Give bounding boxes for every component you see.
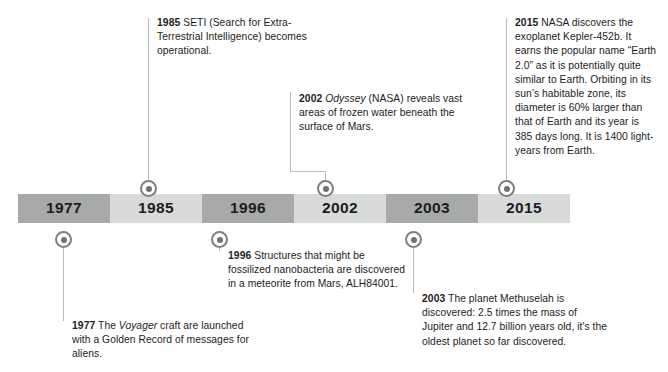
callout-2002-year: 2002 bbox=[299, 93, 322, 104]
leader-line-1985 bbox=[148, 18, 149, 181]
callout-1985-year: 1985 bbox=[157, 17, 180, 28]
year-label-2015: 2015 bbox=[478, 199, 570, 217]
callout-2003: 2003 The planet Methuselah is discovered… bbox=[422, 292, 608, 349]
callout-1977-text-before: The bbox=[95, 320, 119, 331]
timeline-marker-1977[interactable] bbox=[55, 231, 72, 248]
timeline-marker-2002[interactable] bbox=[317, 180, 334, 197]
callout-1996-text: Structures that might be fossilized nano… bbox=[228, 250, 405, 289]
year-label-2002: 2002 bbox=[294, 199, 386, 217]
callout-2015: 2015 NASA discovers the exoplanet Kepler… bbox=[515, 16, 659, 158]
leader-line-1977 bbox=[63, 239, 64, 321]
callout-2015-year: 2015 bbox=[515, 17, 538, 28]
year-label-1985: 1985 bbox=[110, 199, 202, 217]
callout-1996: 1996 Structures that might be fossilized… bbox=[228, 249, 406, 292]
callout-2003-text: The planet Methuselah is discovered: 2.5… bbox=[422, 293, 607, 347]
callout-1996-year: 1996 bbox=[228, 250, 251, 261]
timeline-infographic: 1977 1985 1996 2002 2003 2015 1985 SETI … bbox=[0, 0, 668, 372]
timeline-marker-2003[interactable] bbox=[405, 231, 422, 248]
year-label-1996: 1996 bbox=[202, 199, 294, 217]
callout-2003-year: 2003 bbox=[422, 293, 445, 304]
callout-1977: 1977 The Voyager craft are launched with… bbox=[72, 319, 254, 362]
timeline-marker-1985[interactable] bbox=[140, 180, 157, 197]
leader-line-2002-elbow bbox=[290, 171, 326, 172]
leader-line-2015 bbox=[506, 18, 507, 181]
leader-line-2002-riser bbox=[290, 92, 291, 172]
timeline-marker-2015[interactable] bbox=[498, 180, 515, 197]
callout-1985-text: SETI (Search for Extra-Terrestrial Intel… bbox=[157, 17, 307, 56]
year-label-1977: 1977 bbox=[18, 199, 110, 217]
year-label-2003: 2003 bbox=[386, 199, 478, 217]
callout-2015-text: NASA discovers the exoplanet Kepler-452b… bbox=[515, 17, 656, 156]
timeline-marker-1996[interactable] bbox=[211, 231, 228, 248]
callout-2002-italic: Odyssey bbox=[325, 93, 365, 104]
callout-1977-year: 1977 bbox=[72, 320, 95, 331]
callout-1985: 1985 SETI (Search for Extra-Terrestrial … bbox=[157, 16, 325, 59]
callout-2002: 2002 Odyssey (NASA) reveals vast areas o… bbox=[299, 92, 481, 135]
callout-1977-italic: Voyager bbox=[119, 320, 157, 331]
